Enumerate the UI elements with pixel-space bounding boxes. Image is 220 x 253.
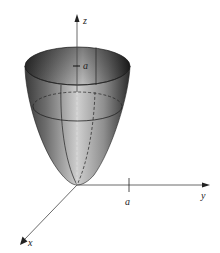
x-axis-label: x xyxy=(27,237,33,248)
y-axis-arrow-icon xyxy=(202,183,210,188)
y-axis-label: y xyxy=(200,190,206,201)
z-tick-label: a xyxy=(83,60,88,71)
z-axis-arrow-icon xyxy=(75,14,80,22)
x-axis xyxy=(24,185,77,240)
z-axis-label: z xyxy=(82,15,87,26)
paraboloid-diagram: z a y a x xyxy=(0,0,220,253)
y-tick-label: a xyxy=(125,196,130,207)
